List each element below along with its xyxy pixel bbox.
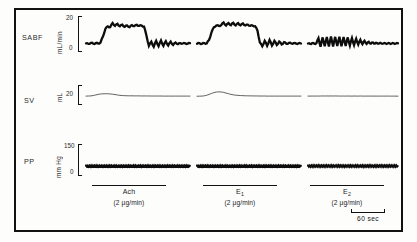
axis-bracket-sabf xyxy=(78,16,82,52)
drug-label-ach: Ach xyxy=(92,188,166,197)
drug-dose-e1: (2 µg/min) xyxy=(203,199,277,206)
row-label-pp: PP xyxy=(24,157,35,166)
row-label-sv: SV xyxy=(24,96,35,105)
axis-tick-sv-high: 20 xyxy=(66,90,73,97)
row-label-sabf: SABF xyxy=(22,33,43,42)
trace-sabf-ach xyxy=(86,14,190,54)
axis-bracket-sv xyxy=(78,85,82,105)
drug-subscript-e2: 2 xyxy=(348,191,351,197)
time-scalebar-label: 60 sec xyxy=(351,215,385,222)
drug-label-e1: E1 xyxy=(203,188,277,197)
physiological-recording-figure: SABF SV PP mL/min 20 0 mL 20 mm Hg 150 0 xyxy=(0,0,417,242)
trace-pp-e2 xyxy=(308,144,398,176)
axis-unit-pp: mm Hg xyxy=(55,146,62,178)
axis-tick-sabf-high: 20 xyxy=(66,14,73,21)
time-scalebar: 60 sec xyxy=(351,212,385,222)
drug-subscript-e1: 1 xyxy=(241,191,244,197)
time-scalebar-tick-left xyxy=(351,209,352,213)
trace-sv-e2 xyxy=(308,83,398,107)
drug-annotation-ach: Ach (2 µg/min) xyxy=(92,185,166,206)
axis-bracket-pp xyxy=(78,144,82,176)
drug-annotation-e2: E2 (2 µg/min) xyxy=(310,185,384,206)
axis-unit-sabf: mL/min xyxy=(56,20,63,54)
infusion-bar-e2 xyxy=(310,185,384,186)
drug-dose-e2: (2 µg/min) xyxy=(310,199,384,206)
axis-tick-pp-low: 0 xyxy=(70,168,74,175)
axis-tick-pp-high: 150 xyxy=(64,142,75,149)
infusion-bar-ach xyxy=(92,185,166,186)
trace-sv-e1 xyxy=(197,83,301,107)
axis-unit-sv: mL xyxy=(56,86,63,102)
trace-sv-ach xyxy=(86,83,190,107)
trace-pp-ach xyxy=(86,144,190,176)
infusion-bar-e1 xyxy=(203,185,277,186)
drug-label-e2: E2 xyxy=(310,188,384,197)
drug-name-ach: Ach xyxy=(123,188,136,195)
time-scalebar-tick-right xyxy=(384,209,385,213)
trace-sabf-e1 xyxy=(197,14,301,54)
drug-dose-ach: (2 µg/min) xyxy=(92,199,166,206)
axis-tick-sabf-low: 0 xyxy=(69,44,73,51)
trace-sabf-e2 xyxy=(308,14,398,54)
time-scalebar-line xyxy=(351,212,385,213)
drug-annotation-e1: E1 (2 µg/min) xyxy=(203,185,277,206)
trace-pp-e1 xyxy=(197,144,301,176)
